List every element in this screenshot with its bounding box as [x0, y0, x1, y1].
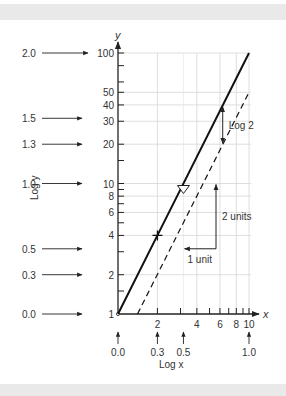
y-tick-label: 40: [103, 100, 115, 111]
x-tick-label: 10: [243, 319, 255, 330]
log-x-value: 1.0: [242, 347, 256, 358]
log-y-value: 0.3: [22, 270, 36, 281]
x-tick-label: 8: [234, 319, 240, 330]
log-y-value: 1.3: [22, 139, 36, 150]
log-y-value: 1.5: [22, 113, 36, 124]
log-x-value: 0.0: [111, 347, 125, 358]
x-axis-label: x: [262, 308, 269, 320]
x-tick-label: 6: [217, 319, 223, 330]
annotations: 1 unit2 unitsLog 2: [184, 107, 254, 265]
y-tick-label: 30: [103, 116, 115, 127]
y-tick-label: 2: [108, 270, 114, 281]
annotation-2-units: 2 units: [222, 211, 251, 222]
y-tick-label: 20: [103, 139, 115, 150]
annotation-1-unit: 1 unit: [188, 254, 213, 265]
x-tick-label: 4: [194, 319, 200, 330]
log-y-value: 2.0: [22, 48, 36, 59]
y-tick-label: 4: [108, 230, 114, 241]
log-y-value: 0.0: [22, 309, 36, 320]
y-tick-label: 10: [103, 179, 115, 190]
log-x-value: 0.3: [150, 347, 164, 358]
log-y-label: Log y: [29, 176, 40, 200]
log-y-value: 0.5: [22, 244, 36, 255]
y-tick-label: 6: [108, 207, 114, 218]
log-x-label: Log x: [159, 359, 183, 370]
x-tick-label: 2: [155, 319, 161, 330]
y-tick-label: 50: [103, 87, 115, 98]
y-tick-label: 8: [108, 191, 114, 202]
y-tick-label: 100: [97, 48, 114, 59]
y-axis-label: y: [114, 29, 122, 41]
log-log-diagram: 246810124681020304050100 2.01.51.31.00.5…: [0, 0, 286, 396]
log-x-value: 0.5: [177, 347, 191, 358]
annotation-log-2: Log 2: [229, 120, 254, 131]
y-tick-label: 1: [108, 309, 114, 320]
plus-marker-icon: [152, 230, 162, 240]
